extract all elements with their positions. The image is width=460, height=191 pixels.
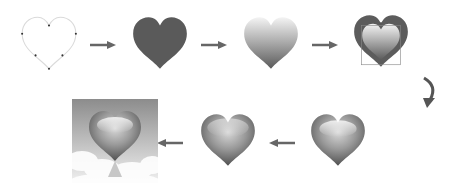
step-solid-heart (129, 15, 191, 71)
step-refined-glossy-heart (197, 112, 259, 168)
arrow-right-icon (89, 40, 117, 50)
arrow-right-icon (200, 40, 228, 50)
curved-arrow-icon (420, 76, 440, 110)
arrow-left-icon (156, 138, 184, 148)
step-glossy-heart (307, 112, 369, 168)
step-gradient-heart (240, 15, 302, 71)
arrow-right-icon (311, 40, 339, 50)
step-outline-heart (18, 15, 80, 71)
step-highlight-heart (350, 13, 412, 71)
step-final-composition (72, 99, 158, 183)
arrow-left-icon (268, 138, 296, 148)
